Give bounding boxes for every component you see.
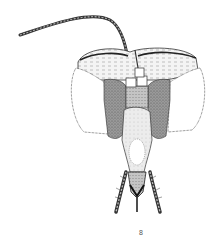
insect-head-illustration bbox=[0, 0, 218, 247]
frons bbox=[126, 86, 148, 108]
right-antenna-base bbox=[137, 76, 147, 86]
labrum-spot bbox=[129, 139, 145, 165]
left-antenna-base bbox=[126, 78, 136, 87]
figure-label: 8 bbox=[136, 229, 146, 236]
